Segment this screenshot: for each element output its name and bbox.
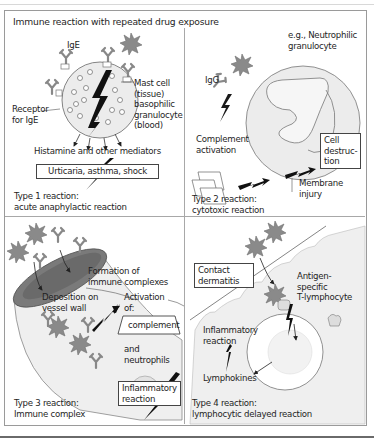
neutrophils-label: and neutrophils	[124, 344, 170, 365]
contact-dermatitis-box: Contact dermatitis	[194, 263, 254, 288]
membrane-injury-label: Membrane injury	[299, 178, 343, 199]
neutrophil-label: e.g., Neutrophilic granulocyte	[288, 30, 357, 51]
inflammatory-reaction-box: Inflammatory reaction	[118, 381, 181, 406]
inflammatory-reaction-label: Inflammatory reaction	[203, 325, 258, 346]
ige-label: IgE	[67, 40, 80, 51]
type4-caption: Type 4 reaction: lymphocytic delayed rea…	[192, 398, 312, 419]
complement-box: complement	[118, 316, 180, 334]
deposition-label: Deposition on vessel wall	[42, 292, 98, 313]
tcell-label: Antigen- specific T-lymphocyte	[297, 271, 352, 303]
formation-label: Formation of immune complexes	[88, 266, 168, 287]
activation-label: Activation of:	[124, 292, 165, 313]
mediators-label: Histamine and other mediators	[34, 146, 161, 157]
receptor-label: Receptor for IgE	[12, 104, 49, 125]
mast-cell-label: Mast cell (tissue) basophilic granulocyt…	[134, 78, 183, 131]
diagram-illustrations	[0, 0, 374, 445]
type1-caption: Type 1 reaction: acute anaphylactic reac…	[14, 191, 127, 212]
type4-illustration	[190, 221, 365, 424]
lymphokines-label: Lymphokines	[203, 373, 256, 384]
type2-caption: Type 2 reaction: cytotoxic reaction	[192, 194, 264, 215]
igg-label: IgG	[205, 75, 219, 86]
complement-activation-label: Complement activation	[196, 134, 249, 155]
cell-destruction-box: Cell destruc- tion	[320, 133, 361, 169]
outcome-box: Urticaria, asthma, shock	[36, 164, 159, 179]
type3-caption: Type 3 reaction: Immune complex	[14, 398, 85, 419]
